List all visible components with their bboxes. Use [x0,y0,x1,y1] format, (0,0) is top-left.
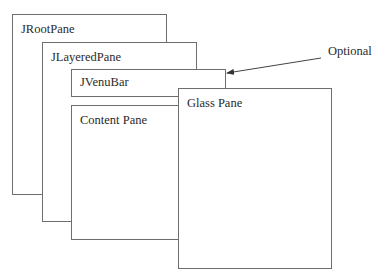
optional-label: Optional [328,44,372,59]
optional-arrow-icon [0,0,382,279]
